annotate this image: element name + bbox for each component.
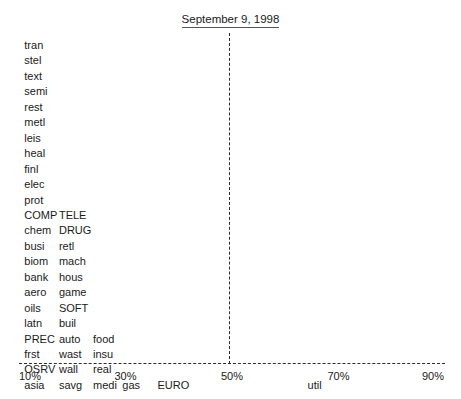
point-label-prec: PREC xyxy=(24,333,55,345)
point-label-elec: elec xyxy=(24,178,44,190)
chart-container: September 9, 1998 10%30%50%70%90% transt… xyxy=(0,0,461,399)
point-label-game: game xyxy=(59,286,87,298)
point-label-savg: savg xyxy=(59,379,82,391)
point-label-food: food xyxy=(93,333,114,345)
point-label-oils: oils xyxy=(24,302,41,314)
reference-line-50-percent xyxy=(229,33,230,364)
point-label-retl: retl xyxy=(59,240,74,252)
point-label-chem: chem xyxy=(24,224,51,236)
point-label-gas: gas xyxy=(122,379,140,391)
point-label-biom: biom xyxy=(24,255,48,267)
point-label-busi: busi xyxy=(24,240,44,252)
x-axis-tick-90pct: 90% xyxy=(422,370,444,383)
point-label-auto: auto xyxy=(59,333,80,345)
point-label-text: text xyxy=(24,70,42,82)
x-axis-tick-70pct: 70% xyxy=(328,370,350,383)
point-label-drug: DRUG xyxy=(59,224,91,236)
point-label-insu: insu xyxy=(93,348,113,360)
point-label-tran: tran xyxy=(24,39,43,51)
point-label-euro: EURO xyxy=(157,379,189,391)
point-label-frst: frst xyxy=(24,348,39,360)
point-label-wall: wall xyxy=(59,363,78,375)
point-label-metl: metl xyxy=(24,116,45,128)
point-label-osrv: OSRV xyxy=(24,363,55,375)
point-label-stel: stel xyxy=(24,54,41,66)
point-label-rest: rest xyxy=(24,101,42,113)
point-label-finl: finl xyxy=(24,163,38,175)
point-label-mach: mach xyxy=(59,255,86,267)
x-axis-line xyxy=(19,363,445,364)
point-label-medi: medi xyxy=(93,379,117,391)
point-label-util: util xyxy=(308,379,322,391)
point-label-comp: COMP xyxy=(24,209,57,221)
point-label-semi: semi xyxy=(24,85,47,97)
point-label-buil: buil xyxy=(59,317,76,329)
point-label-aero: aero xyxy=(24,286,46,298)
plot-area: 10%30%50%70%90% transteltextsemirestmetl… xyxy=(0,0,461,399)
point-label-heal: heal xyxy=(24,147,45,159)
point-label-wast: wast xyxy=(59,348,82,360)
point-label-soft: SOFT xyxy=(59,302,88,314)
point-label-leis: leis xyxy=(24,132,41,144)
point-label-asia: asia xyxy=(24,379,44,391)
point-label-real: real xyxy=(93,363,111,375)
point-label-hous: hous xyxy=(59,271,83,283)
x-axis-tick-50pct: 50% xyxy=(221,370,243,383)
point-label-tele: TELE xyxy=(59,209,87,221)
point-label-bank: bank xyxy=(24,271,48,283)
point-label-latn: latn xyxy=(24,317,42,329)
point-label-prot: prot xyxy=(24,194,43,206)
